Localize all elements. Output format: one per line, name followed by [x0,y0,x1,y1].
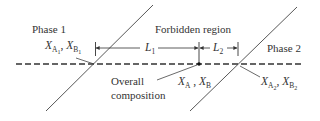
leader-phase2 [240,66,260,77]
phase1-composition-label: XA1, XB1 [45,40,81,55]
overall-composition-label: XA , XB [178,76,211,90]
overall-label-line2: composition [111,90,165,101]
diagram-lines [0,0,320,121]
phase2-composition-label: XA2, XB2 [261,76,297,91]
phase2-label: Phase 2 [267,43,301,54]
L1-label: L1 [145,42,155,56]
phase1-label: Phase 1 [32,24,66,35]
overall-composition-point [197,62,201,66]
leader-phase1 [76,58,94,64]
L2-label: L2 [213,42,223,56]
overall-label-line1: Overall [111,76,144,87]
lever-rule-diagram: Phase 1 Forbidden region Phase 2 Overall… [0,0,320,121]
forbidden-region-label: Forbidden region [155,24,231,35]
